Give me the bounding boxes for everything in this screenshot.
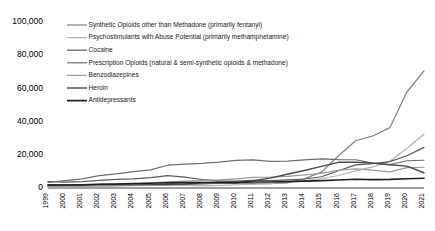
x-axis-tick-label: 2010: [230, 193, 237, 209]
x-axis-tick-label: 2001: [76, 193, 83, 209]
x-axis-tick-label: 2016: [333, 193, 340, 209]
x-axis-tick-label: 2011: [247, 193, 254, 208]
x-axis-tick-label: 2013: [281, 193, 288, 209]
x-axis-tick-label: 2012: [264, 193, 271, 209]
chart-legend: Synthetic Opioids other than Methadone (…: [67, 21, 289, 105]
x-axis-tick-label: 2020: [401, 193, 408, 209]
x-axis-tick-label: 2021: [418, 193, 425, 209]
legend-label-5: Heroin: [89, 84, 109, 91]
x-axis-tick-label: 2019: [384, 193, 391, 209]
x-axis-tick-label: 2002: [93, 193, 100, 209]
x-axis-tick-label: 2009: [213, 193, 220, 209]
legend-label-2: Cocaine: [89, 46, 114, 53]
legend-label-6: Antidepressants: [89, 96, 137, 104]
y-axis: 020,00040,00060,00080,000100,000: [12, 16, 43, 192]
x-axis-tick-label: 2007: [179, 193, 186, 209]
legend-label-3: Prescription Opioids (natural & semi-syn…: [89, 59, 288, 67]
chart-canvas: 020,00040,00060,00080,000100,000 1999200…: [0, 0, 435, 231]
legend-label-4: Benzodiazepines: [89, 71, 140, 79]
x-axis-tick-label: 2015: [315, 193, 322, 209]
y-axis-tick-label: 60,000: [17, 83, 43, 93]
x-axis-tick-label: 2005: [145, 193, 152, 209]
y-axis-tick-label: 20,000: [17, 149, 43, 159]
y-axis-tick-label: 100,000: [12, 16, 43, 26]
x-axis-tick-label: 2003: [110, 193, 117, 209]
x-axis-tick-label: 2006: [162, 193, 169, 209]
x-axis: 1999200020012002200320042005200620072008…: [42, 188, 425, 209]
series-line-2: [48, 147, 424, 182]
x-axis-tick-label: 2017: [350, 193, 357, 209]
x-axis-tick-label: 2008: [196, 193, 203, 209]
line-chart: 020,00040,00060,00080,000100,000 1999200…: [0, 0, 435, 231]
x-axis-tick-label: 2000: [59, 193, 66, 209]
legend-label-0: Synthetic Opioids other than Methadone (…: [89, 21, 263, 29]
x-axis-tick-label: 1999: [42, 193, 49, 209]
x-axis-tick-label: 2004: [127, 193, 134, 209]
legend-label-1: Psychostimulants with Abuse Potential (p…: [89, 33, 289, 41]
x-axis-tick-label: 2014: [298, 193, 305, 209]
y-axis-tick-label: 80,000: [17, 49, 43, 59]
y-axis-tick-label: 0: [38, 182, 43, 192]
y-axis-tick-label: 40,000: [17, 116, 43, 126]
x-axis-tick-label: 2018: [367, 193, 374, 209]
